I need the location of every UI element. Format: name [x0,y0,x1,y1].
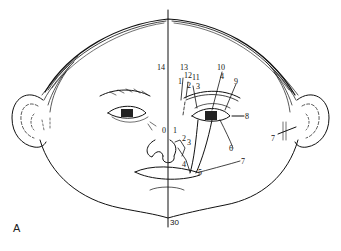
skull-outline [45,19,295,95]
label-10: 10 [217,63,225,72]
label-8: 8 [245,112,249,121]
label-4: 4 [182,160,186,169]
label-5: 5 [198,168,202,177]
left-temple-hair [42,56,78,112]
right-eye [192,104,244,122]
face-diagram: 14 13 12 11 1 2 3 10 4 9 8 0 1 2 3 4 5 6… [0,0,341,251]
label-3: 3 [187,138,191,147]
label-upper-2: 2 [187,81,191,90]
label-1: 1 [173,126,177,135]
left-eye [108,106,148,122]
label-upper-3: 3 [196,82,200,91]
label-14: 14 [157,63,165,72]
label-upper-4: 4 [220,72,224,81]
label-upper-1: 1 [178,77,182,86]
left-eyebrow [100,89,150,96]
label-7: 7 [241,157,245,166]
label-12: 12 [184,71,192,80]
nose [147,140,185,163]
left-ear [12,95,46,147]
ear-cleft-line [278,127,296,134]
label-0: 0 [162,126,166,135]
panel-label: A [13,222,20,234]
label-11: 11 [192,73,200,82]
left-cheek-strokes [42,118,156,130]
right-temple-hair [262,56,298,112]
label-30: 30 [170,218,179,227]
right-ear [295,95,329,147]
label-2: 2 [182,134,186,143]
label-9: 9 [234,77,238,86]
label-7-ear: 7 [271,134,275,143]
label-6: 6 [229,144,233,153]
